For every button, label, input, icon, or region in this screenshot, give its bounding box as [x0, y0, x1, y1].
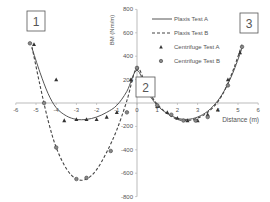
- circle-marker: [28, 42, 32, 46]
- y-tick-label: 600: [123, 30, 134, 36]
- circle-marker: [226, 84, 230, 88]
- x-tick-label: 0: [135, 107, 139, 113]
- y-tick-label: -200: [121, 123, 134, 129]
- annotation-label: 3: [246, 17, 253, 31]
- triangle-marker: [54, 77, 58, 81]
- triangle-icon: [159, 45, 163, 49]
- circle-marker: [42, 101, 46, 105]
- y-tick-label: 800: [123, 6, 134, 12]
- legend-label: Plaxis Test A: [174, 16, 208, 22]
- x-tick-label: 3: [196, 107, 200, 113]
- legend-item: Plaxis Test B: [152, 30, 208, 36]
- circle-marker: [182, 119, 186, 123]
- legend-label: Plaxis Test B: [174, 30, 208, 36]
- axes: -6-5-4-3-2-10123456800600400200-200-400-…: [13, 6, 260, 199]
- circle-marker: [125, 111, 129, 115]
- circle-marker: [135, 66, 139, 70]
- legend-item: Centrifuge Test B: [159, 58, 220, 64]
- circle-marker: [194, 119, 198, 123]
- legend-item: Plaxis Test A: [152, 16, 208, 22]
- x-tick-label: -3: [74, 107, 80, 113]
- annotation-boxes: 123: [27, 11, 258, 97]
- circle-marker: [206, 115, 210, 119]
- circle-marker: [75, 177, 79, 181]
- bending-moment-chart: -6-5-4-3-2-10123456800600400200-200-400-…: [0, 0, 270, 202]
- circle-marker: [170, 113, 174, 117]
- circle-icon: [159, 59, 162, 62]
- annotation-label: 1: [33, 15, 40, 29]
- legend-label: Centrifuge Test B: [174, 58, 220, 64]
- x-axis-label: Distance (m): [222, 116, 259, 124]
- legend: Plaxis Test APlaxis Test BCentrifuge Tes…: [152, 16, 220, 64]
- x-tick-label: 6: [257, 107, 261, 113]
- y-tick-label: -400: [121, 147, 134, 153]
- circle-marker: [155, 104, 159, 108]
- circle-marker: [240, 45, 244, 49]
- circle-marker: [85, 176, 89, 180]
- circle-marker: [54, 146, 58, 150]
- x-tick-label: 2: [176, 107, 180, 113]
- y-axis-label: BM (Nm/m): [109, 15, 115, 46]
- x-tick-label: -2: [94, 107, 100, 113]
- triangle-marker: [105, 115, 109, 119]
- circle-marker: [109, 149, 113, 153]
- y-tick-label: 400: [123, 53, 134, 59]
- triangle-marker: [32, 42, 36, 46]
- x-tick-label: -5: [33, 107, 39, 113]
- x-tick-label: 5: [236, 107, 240, 113]
- triangle-marker: [62, 118, 66, 122]
- legend-item: Centrifuge Test A: [159, 44, 219, 50]
- x-tick-label: -6: [13, 107, 19, 113]
- y-tick-label: -800: [121, 194, 134, 200]
- y-tick-label: -600: [121, 170, 134, 176]
- legend-label: Centrifuge Test A: [174, 44, 220, 50]
- annotation-label: 2: [142, 81, 149, 95]
